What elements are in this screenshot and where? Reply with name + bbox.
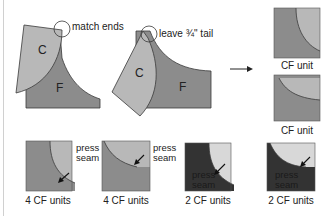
step2-label-f: F [179,82,186,93]
step1-label-c: C [38,45,47,56]
bottom-unit-3-caption: 2 CF units [185,195,231,206]
step2-callout: leave ¾" tail [159,28,213,39]
bottom-unit-1 [26,141,75,191]
bottom-unit-2-note: press seam [153,143,183,163]
step2-pieces [112,26,211,116]
bottom-unit-2-caption: 4 CF units [103,195,149,206]
result1-caption: CF unit [281,60,313,71]
bottom-unit-4-note: press seam [275,170,305,190]
step2-label-c: C [135,68,144,79]
result1-unit [274,8,320,58]
bottom-unit-1-caption: 4 CF units [25,195,71,206]
bottom-unit-3-note: press seam [192,170,222,190]
bottom-unit-1-note: press seam [76,143,106,163]
result2-caption: CF unit [281,125,313,136]
result2-unit [274,75,320,121]
bottom-unit-4-caption: 2 CF units [268,195,314,206]
right-arrow-icon [230,66,253,72]
bottom-unit-2 [102,141,150,191]
step1-label-f: F [56,83,63,94]
step1-callout: match ends [72,21,124,32]
